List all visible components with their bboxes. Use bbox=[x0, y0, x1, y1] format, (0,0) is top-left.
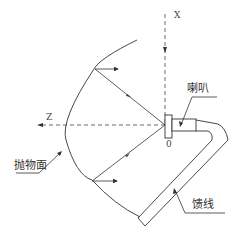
horn-body bbox=[172, 119, 196, 131]
x-axis-arrow-icon bbox=[163, 47, 167, 53]
ray-lower bbox=[92, 125, 165, 181]
paraboloid-label: 抛物面 bbox=[14, 160, 47, 171]
horn-flange bbox=[165, 115, 172, 138]
origin-label: 0 bbox=[166, 140, 172, 149]
feedline-leader-arrow-icon bbox=[173, 188, 177, 194]
z-axis-arrow-icon bbox=[37, 123, 43, 127]
x-axis-label: X bbox=[174, 11, 180, 20]
feedline bbox=[138, 120, 228, 226]
feedline-label: 馈线 bbox=[192, 199, 214, 210]
z-axis-label: Z bbox=[46, 113, 52, 122]
horn-label: 喇叭 bbox=[187, 83, 209, 94]
ray-upper bbox=[95, 69, 165, 125]
paraboloid-curve bbox=[65, 40, 140, 217]
